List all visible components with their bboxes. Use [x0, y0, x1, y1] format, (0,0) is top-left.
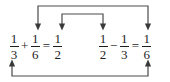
right-result-numerator: 1 — [142, 32, 151, 45]
right-minuend-numerator: 1 — [99, 32, 108, 45]
right-subtrahend-numerator: 1 — [120, 32, 129, 45]
right-minus-operator: − — [110, 38, 117, 54]
right-subtrahend-fraction: 1 3 — [120, 32, 129, 61]
equation-right: 1 2 − 1 3 = 1 6 — [98, 31, 152, 61]
right-equals-operator: = — [132, 38, 139, 54]
left-second-addend-denominator: 6 — [31, 48, 40, 61]
left-equals-operator: = — [43, 38, 50, 54]
equation-left: 1 3 + 1 6 = 1 2 — [9, 31, 63, 61]
left-result-numerator: 1 — [53, 32, 62, 45]
left-first-addend-numerator: 1 — [10, 32, 19, 45]
left-result-fraction: 1 2 — [53, 32, 62, 61]
left-second-addend-fraction: 1 6 — [31, 32, 40, 61]
right-minuend-fraction: 1 2 — [99, 32, 108, 61]
left-second-addend-numerator: 1 — [31, 32, 40, 45]
right-result-denominator: 6 — [142, 48, 151, 61]
equations-layer: 1 3 + 1 6 = 1 2 1 2 − — [0, 0, 170, 82]
right-subtrahend-denominator: 3 — [120, 48, 129, 61]
fraction-arrow-diagram: 1 3 + 1 6 = 1 2 1 2 − — [0, 0, 170, 82]
left-result-denominator: 2 — [53, 48, 62, 61]
left-first-addend-denominator: 3 — [10, 48, 19, 61]
left-first-addend-fraction: 1 3 — [10, 32, 19, 61]
right-minuend-denominator: 2 — [99, 48, 108, 61]
left-plus-operator: + — [21, 38, 28, 54]
right-result-fraction: 1 6 — [142, 32, 151, 61]
